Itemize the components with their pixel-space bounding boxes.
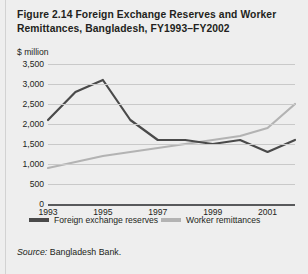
legend-label: Foreign exchange reserves — [54, 215, 158, 225]
plot-canvas — [48, 64, 295, 204]
series-line — [48, 104, 295, 168]
legend-swatch — [161, 218, 181, 221]
y-axis-tick: 1,500 — [22, 139, 44, 149]
gridline — [48, 144, 295, 145]
source-note: Source: Bangladesh Bank. — [17, 247, 121, 257]
legend-label: Worker remittances — [186, 215, 260, 225]
legend-item[interactable]: Worker remittances — [161, 215, 260, 225]
gridline — [48, 184, 295, 185]
y-axis-tick: 3,000 — [22, 79, 44, 89]
gridline — [48, 124, 295, 125]
y-axis-tick: 2,000 — [22, 119, 44, 129]
x-axis-line — [48, 204, 295, 206]
gridline — [48, 84, 295, 85]
legend-item[interactable]: Foreign exchange reserves — [29, 215, 158, 225]
series-line — [48, 80, 295, 152]
gridline — [48, 64, 295, 65]
y-axis-units-label: $ million — [17, 47, 49, 57]
y-axis-tick: 2,500 — [22, 99, 44, 109]
gridline — [48, 164, 295, 165]
gridline — [48, 104, 295, 105]
chart-legend: Foreign exchange reservesWorker remittan… — [0, 215, 308, 229]
y-axis-tick: 500 — [30, 179, 44, 189]
legend-swatch — [29, 218, 49, 221]
y-axis-tick: 1,000 — [22, 159, 44, 169]
y-axis-tick: 3,500 — [22, 59, 44, 69]
series-lines — [48, 64, 295, 204]
source-keyword: Source: — [17, 247, 47, 257]
y-axis-tick-labels: 05001,0001,5002,0002,5003,0003,500 — [0, 64, 44, 204]
source-value: Bangladesh Bank. — [47, 247, 121, 257]
figure-title: Figure 2.14 Foreign Exchange Reserves an… — [17, 8, 295, 35]
figure-container: Figure 2.14 Foreign Exchange Reserves an… — [0, 0, 308, 274]
plot-area: 05001,0001,5002,0002,5003,0003,500 19931… — [0, 58, 308, 208]
